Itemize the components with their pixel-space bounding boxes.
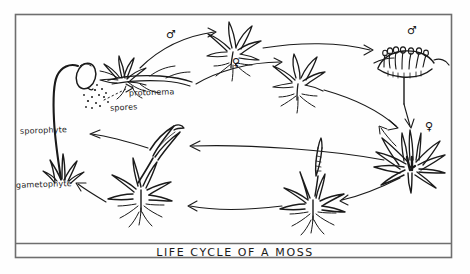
male-symbol-antheridial-head: ♂ — [407, 24, 417, 37]
female-symbol-protonema-branch: ♀ — [232, 56, 240, 69]
label-spores: spores — [110, 102, 138, 112]
label-protonema: protonema — [129, 87, 175, 98]
diagram-canvas — [0, 0, 470, 274]
label-sporophyte: sporophyte — [20, 125, 67, 136]
figure-title: LIFE CYCLE OF A MOSS — [0, 246, 470, 259]
female-symbol-archegonial-head: ♀ — [425, 120, 433, 133]
moss-life-cycle-figure: spores sporophyte gametophyte protonema … — [0, 0, 470, 274]
male-symbol-protonema-branch: ♂ — [166, 28, 176, 41]
